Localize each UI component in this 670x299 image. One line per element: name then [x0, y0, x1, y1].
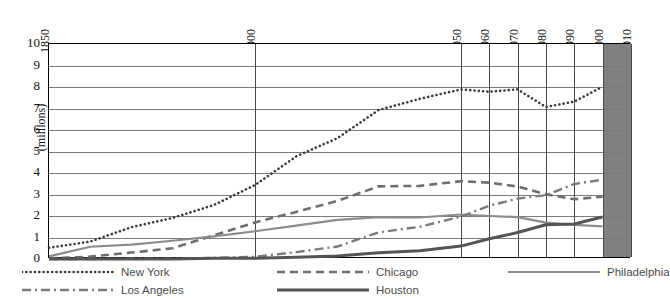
legend-label-philadelphia: Philadelphia: [607, 266, 670, 278]
y-tick-9: 9: [14, 60, 40, 70]
legend-item-philadelphia[interactable]: Philadelphia: [508, 266, 670, 278]
chart-legend: New YorkChicagoPhiladelphiaLos AngelesHo…: [0, 264, 644, 299]
series-line-los-angeles: [49, 180, 603, 259]
legend-item-los-angeles[interactable]: Los Angeles: [22, 284, 184, 296]
y-tick-4: 4: [14, 167, 40, 177]
legend-label-chicago: Chicago: [376, 266, 418, 278]
y-tick-5: 5: [14, 146, 40, 156]
y-tick-8: 8: [14, 81, 40, 91]
legend-swatch-philadelphia: [508, 266, 600, 278]
y-tick-6: 6: [14, 124, 40, 134]
legend-swatch-houston: [277, 284, 369, 296]
legend-item-chicago[interactable]: Chicago: [277, 266, 418, 278]
legend-label-los-angeles: Los Angeles: [121, 284, 184, 296]
series-line-philadelphia: [49, 214, 603, 256]
y-tick-10: 10: [14, 38, 40, 48]
legend-swatch-chicago: [277, 266, 369, 278]
y-tick-1: 1: [14, 232, 40, 242]
y-tick-2: 2: [14, 210, 40, 220]
series-line-chicago: [49, 181, 603, 258]
legend-label-houston: Houston: [376, 284, 419, 296]
legend-item-new-york[interactable]: New York: [22, 266, 170, 278]
y-tick-0: 0: [14, 253, 40, 263]
legend-swatch-los-angeles: [22, 284, 114, 296]
legend-item-houston[interactable]: Houston: [277, 284, 419, 296]
plot-area: [48, 43, 630, 258]
series-line-new-york: [49, 87, 603, 248]
legend-label-new-york: New York: [121, 266, 170, 278]
y-tick-3: 3: [14, 189, 40, 199]
series-lines: [49, 44, 631, 259]
legend-swatch-new-york: [22, 266, 114, 278]
y-tick-7: 7: [14, 103, 40, 113]
